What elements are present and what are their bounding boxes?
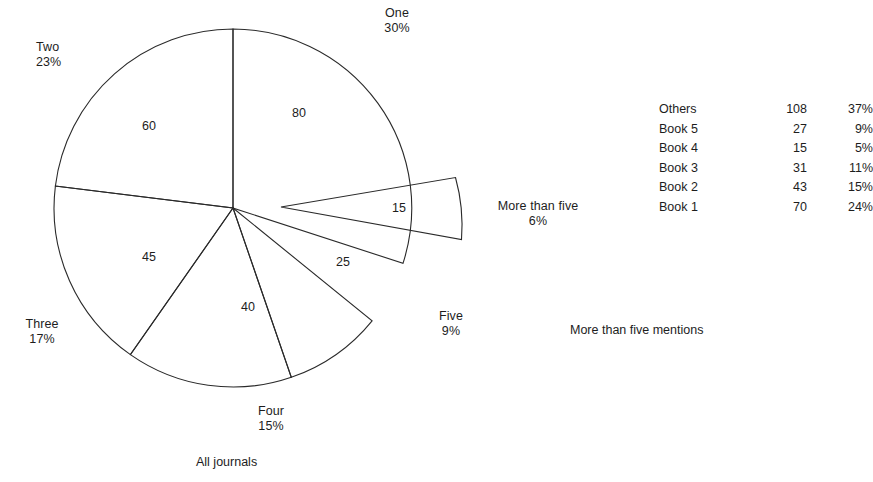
pie-label-five: Five 9% — [439, 309, 463, 338]
table-cell-count: 43 — [767, 178, 807, 198]
table-cell-percent: 37% — [807, 100, 873, 120]
pie-label-more-than-five-pct: 6% — [498, 214, 579, 229]
breakdown-table: Others 108 37% Book 5 27 9% Book 4 15 5%… — [659, 100, 873, 217]
pie-slice-three — [54, 186, 233, 355]
pie-label-four-pct: 15% — [258, 419, 284, 434]
table-row: Book 4 15 5% — [659, 139, 873, 159]
pie-slice-five — [233, 208, 372, 377]
table-cell-label: Book 4 — [659, 139, 767, 159]
pie-slice-four — [130, 208, 291, 387]
pie-label-two: Two 23% — [36, 40, 61, 69]
table-cell-count: 70 — [767, 198, 807, 218]
pie-label-three-pct: 17% — [25, 332, 58, 347]
pie-label-one-name: One — [384, 6, 409, 21]
table-cell-count: 15 — [767, 139, 807, 159]
pie-label-three-name: Three — [25, 317, 58, 332]
table-cell-percent: 9% — [807, 120, 873, 140]
table-cell-count: 27 — [767, 120, 807, 140]
pie-value-one: 80 — [292, 106, 306, 120]
pie-label-four-name: Four — [258, 404, 284, 419]
pie-label-five-pct: 9% — [439, 324, 463, 339]
pie-label-more-than-five: More than five 6% — [498, 199, 579, 228]
pie-value-more-than-five: 15 — [392, 201, 406, 215]
table-cell-label: Book 3 — [659, 159, 767, 179]
pie-slice-more-than-five — [281, 178, 462, 240]
table-cell-count: 31 — [767, 159, 807, 179]
pie-label-more-than-five-name: More than five — [498, 199, 579, 214]
pie-label-four: Four 15% — [258, 404, 284, 433]
table-cell-percent: 5% — [807, 139, 873, 159]
table-row: Book 5 27 9% — [659, 120, 873, 140]
table-cell-label: Book 1 — [659, 198, 767, 218]
pie-slice-one — [233, 29, 412, 263]
pie-caption: All journals — [196, 455, 257, 469]
table-cell-percent: 15% — [807, 178, 873, 198]
table-cell-label: Others — [659, 100, 767, 120]
pie-label-one: One 30% — [384, 6, 409, 35]
table-row: Book 1 70 24% — [659, 198, 873, 218]
table-cell-label: Book 5 — [659, 120, 767, 140]
pie-label-two-pct: 23% — [36, 55, 61, 70]
table-row: Book 3 31 11% — [659, 159, 873, 179]
table-cell-percent: 24% — [807, 198, 873, 218]
table-cell-label: Book 2 — [659, 178, 767, 198]
pie-value-four: 40 — [241, 300, 255, 314]
pie-value-five: 25 — [336, 255, 350, 269]
table-row: Others 108 37% — [659, 100, 873, 120]
table-cell-percent: 11% — [807, 159, 873, 179]
table-row: Book 2 43 15% — [659, 178, 873, 198]
pie-label-three: Three 17% — [25, 317, 58, 346]
pie-label-one-pct: 30% — [384, 21, 409, 36]
table-cell-count: 108 — [767, 100, 807, 120]
table-caption: More than five mentions — [570, 323, 703, 337]
pie-value-two: 60 — [142, 119, 156, 133]
pie-value-three: 45 — [142, 250, 156, 264]
pie-label-two-name: Two — [36, 40, 61, 55]
pie-label-five-name: Five — [439, 309, 463, 324]
